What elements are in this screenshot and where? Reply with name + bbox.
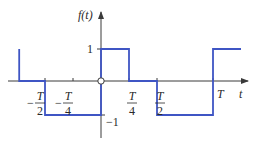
- tick-numerator: T: [129, 89, 137, 103]
- tick-text: T: [217, 87, 225, 101]
- tick-denominator: 4: [65, 104, 71, 118]
- tick-numerator: T: [157, 89, 165, 103]
- origin-marker: [98, 78, 104, 84]
- tick-denominator: 4: [129, 104, 135, 118]
- tick-denominator: 2: [37, 104, 43, 118]
- level-one-label: 1: [87, 42, 93, 56]
- tick-label-neg-quarter: −T4: [55, 89, 73, 118]
- diagram-canvas: f(t) t 1 −1 −T2−T4T4T2T: [0, 0, 254, 142]
- tick-sign: −: [55, 96, 62, 110]
- t-axis-label: t: [239, 87, 243, 101]
- tick-denominator: 2: [157, 104, 163, 118]
- tick-sign: −: [27, 96, 34, 110]
- tick-labels: −T2−T4T4T2T: [27, 87, 225, 118]
- function-label: f(t): [78, 8, 93, 22]
- tick-numerator: T: [65, 89, 73, 103]
- tick-label-period: T: [217, 87, 225, 101]
- tick-label-neg-half: −T2: [27, 89, 45, 118]
- level-minus-one-label: −1: [106, 115, 119, 129]
- tick-label-pos-quarter: T4: [127, 89, 137, 118]
- square-wave-diagram: f(t) t 1 −1 −T2−T4T4T2T: [0, 0, 254, 142]
- tick-numerator: T: [37, 89, 45, 103]
- tick-label-pos-half: T2: [155, 89, 165, 118]
